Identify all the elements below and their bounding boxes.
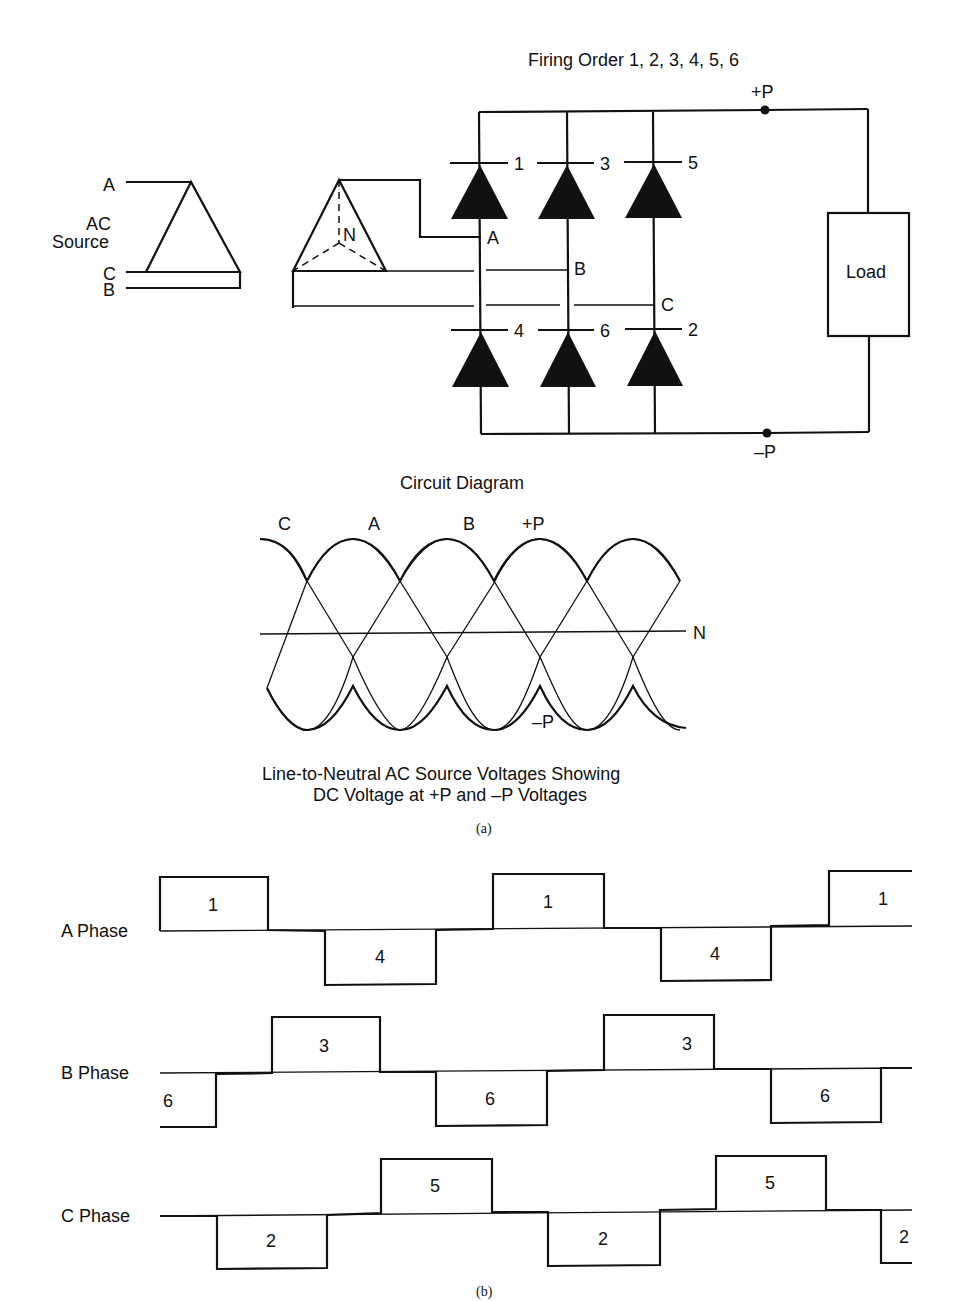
phase-label: C Phase	[61, 1206, 130, 1226]
positive-envelope	[260, 539, 680, 581]
svg-text:1: 1	[543, 892, 553, 912]
svg-text:4: 4	[710, 944, 720, 964]
diode-6: 6	[538, 321, 610, 387]
three-phase-rectifier-figure: Firing Order 1, 2, 3, 4, 5, 6 A AC Sourc…	[0, 0, 970, 1301]
wave-label-a: A	[368, 514, 380, 534]
svg-text:3: 3	[682, 1034, 692, 1054]
wave-label-negative: –P	[532, 712, 554, 732]
diode-icon	[452, 332, 509, 387]
svg-text:6: 6	[163, 1091, 173, 1111]
diode-icon	[627, 331, 683, 386]
negative-bus-label: –P	[754, 442, 776, 462]
phase-label: A Phase	[61, 921, 128, 941]
voltage-waveforms: N C A B +P –P Line-to-Neutral AC Source …	[260, 514, 706, 837]
svg-text:3: 3	[600, 154, 610, 174]
phase-label: B Phase	[61, 1063, 129, 1083]
positive-bus-label: +P	[751, 82, 774, 102]
waveform-caption-line2: DC Voltage at +P and –P Voltages	[313, 785, 587, 805]
diode-3: 3	[537, 154, 610, 219]
svg-text:1: 1	[208, 895, 218, 915]
transformer-neutral-label: N	[343, 225, 356, 245]
circuit-caption: Circuit Diagram	[400, 473, 524, 493]
diode-icon	[625, 164, 682, 218]
node-b-label: B	[574, 259, 586, 279]
svg-text:6: 6	[600, 321, 610, 341]
node-a-label: A	[487, 228, 499, 248]
wave-label-b: B	[463, 514, 475, 534]
svg-text:5: 5	[688, 153, 698, 173]
neutral-axis-label: N	[693, 623, 706, 643]
svg-text:3: 3	[319, 1036, 329, 1056]
svg-text:4: 4	[514, 321, 524, 341]
ac-source-delta: A AC Source C B	[52, 175, 240, 300]
svg-text:1: 1	[514, 154, 524, 174]
diode-1: 1	[450, 154, 524, 219]
node-c-label: C	[661, 295, 674, 315]
part-b-label: (b)	[476, 1284, 493, 1300]
svg-text:2: 2	[266, 1231, 276, 1251]
load-label: Load	[846, 262, 886, 282]
phase-b-wave	[267, 539, 680, 730]
svg-text:6: 6	[820, 1086, 830, 1106]
wave-label-positive: +P	[522, 514, 545, 534]
b-phase-trace: B Phase 6 3 6 3 6	[61, 1015, 912, 1127]
neutral-axis	[260, 631, 686, 634]
c-phase-trace: C Phase 2 5 2 5 2	[61, 1156, 912, 1269]
svg-text:6: 6	[485, 1089, 495, 1109]
svg-text:5: 5	[765, 1173, 775, 1193]
svg-text:5: 5	[430, 1176, 440, 1196]
svg-text:4: 4	[375, 947, 385, 967]
conduction-timing: A Phase 1 4 1 4 1 B Phase 6 3 6 3 6 C Ph…	[61, 871, 912, 1300]
source-phase-b-label: B	[103, 280, 115, 300]
firing-order-title: Firing Order 1, 2, 3, 4, 5, 6	[528, 50, 739, 70]
svg-text:2: 2	[899, 1227, 909, 1247]
ac-source-label: AC	[86, 214, 111, 234]
diode-icon	[540, 332, 596, 387]
diode-5: 5	[624, 153, 698, 218]
phase-a-wave	[267, 539, 680, 730]
diode-icon	[451, 165, 508, 219]
a-phase-trace: A Phase 1 4 1 4 1	[61, 871, 912, 985]
phase-c-wave	[260, 539, 680, 730]
svg-text:2: 2	[688, 320, 698, 340]
positive-bus-dot-icon	[761, 106, 770, 115]
waveform-caption-line1: Line-to-Neutral AC Source Voltages Showi…	[262, 764, 620, 784]
source-delta-triangle-icon	[146, 182, 240, 272]
diode-2: 2	[625, 320, 698, 386]
circuit-diagram: Firing Order 1, 2, 3, 4, 5, 6 A AC Sourc…	[52, 50, 909, 493]
diode-icon	[538, 165, 595, 219]
diode-4: 4	[451, 321, 524, 387]
negative-bus-dot-icon	[763, 429, 772, 438]
bridge-rectifier: 1 3 5 4 6	[450, 82, 909, 462]
svg-text:1: 1	[878, 889, 888, 909]
negative-envelope	[267, 686, 686, 730]
svg-text:2: 2	[598, 1229, 608, 1249]
wave-label-c: C	[278, 514, 291, 534]
source-phase-a-label: A	[103, 175, 115, 195]
ac-source-label-2: Source	[52, 232, 109, 252]
part-a-label: (a)	[476, 821, 492, 837]
